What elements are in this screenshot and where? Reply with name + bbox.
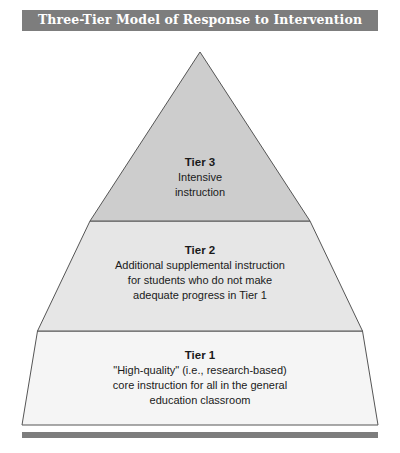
tier-1-label-group: Tier 1 "High-quality" (i.e., research-ba…	[0, 348, 400, 408]
tier-2-label-group: Tier 2 Additional supplemental instructi…	[0, 243, 400, 303]
tier-2-line-2: for students who do not make	[0, 273, 400, 288]
tier-2-heading: Tier 2	[0, 243, 400, 258]
rti-pyramid-figure: Three-Tier Model of Response to Interven…	[0, 0, 400, 453]
tier-1-heading: Tier 1	[0, 348, 400, 363]
tier-3-heading: Tier 3	[0, 155, 400, 170]
tier-3-line-1: Intensive	[0, 170, 400, 185]
tier-1-line-2: core instruction for all in the general	[0, 378, 400, 393]
tier-3-label-group: Tier 3 Intensive instruction	[0, 155, 400, 200]
tier-2-line-3: adequate progress in Tier 1	[0, 288, 400, 303]
tier-2-line-1: Additional supplemental instruction	[0, 258, 400, 273]
tier-1-line-3: education classroom	[0, 393, 400, 408]
tier-1-line-1: "High-quality" (i.e., research-based)	[0, 363, 400, 378]
tier-3-line-2: instruction	[0, 185, 400, 200]
figure-bottom-rule	[22, 432, 378, 438]
